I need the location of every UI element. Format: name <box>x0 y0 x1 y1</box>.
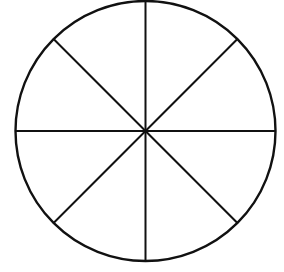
diagram-svg <box>0 0 284 272</box>
divided-circle-diagram <box>0 0 284 272</box>
sector-dividers <box>16 1 276 261</box>
